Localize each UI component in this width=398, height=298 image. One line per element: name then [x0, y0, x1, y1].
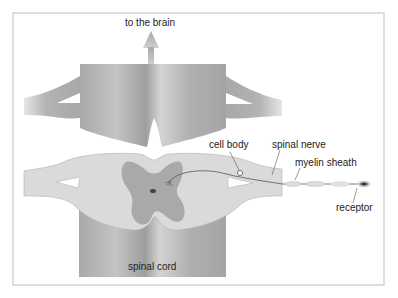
label-to-the-brain: to the brain	[125, 17, 175, 28]
central-canal	[150, 189, 156, 193]
arrow-up-icon	[143, 31, 159, 65]
label-cell-body: cell body	[209, 139, 248, 150]
cell-body-icon	[237, 170, 242, 175]
spinal-cord-diagram: to the brain cell body spinal nerve myel…	[0, 0, 398, 298]
label-myelin-sheath: myelin sheath	[295, 157, 357, 168]
upper-cord-segment	[24, 64, 282, 147]
label-spinal-nerve: spinal nerve	[272, 139, 326, 150]
label-spinal-cord: spinal cord	[128, 261, 176, 272]
label-receptor: receptor	[336, 202, 373, 213]
